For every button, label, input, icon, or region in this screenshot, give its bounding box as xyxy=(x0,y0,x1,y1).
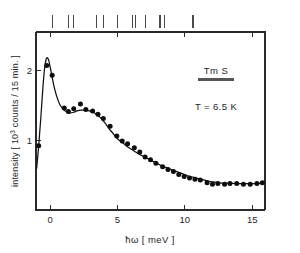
data-point xyxy=(187,175,192,180)
level-marker-group xyxy=(52,15,193,28)
data-point xyxy=(248,182,253,187)
data-point xyxy=(205,180,210,185)
x-axis-tick-label: 0 xyxy=(47,214,52,225)
data-point xyxy=(108,124,113,129)
data-point xyxy=(66,109,71,114)
y-axis-label-prefix: intensity [ 10 xyxy=(10,134,20,187)
data-point xyxy=(192,177,197,182)
data-point xyxy=(90,108,95,113)
data-point xyxy=(215,181,220,186)
data-point xyxy=(160,164,165,169)
sample-annotation: Tm S xyxy=(204,65,228,76)
temperature-annotation: T = 6.5 K xyxy=(195,101,238,112)
data-point xyxy=(222,182,227,187)
data-point xyxy=(120,138,125,143)
data-point xyxy=(182,174,187,179)
data-point xyxy=(44,63,49,68)
data-point xyxy=(62,106,67,111)
fit-curve xyxy=(37,58,265,184)
x-axis-tick-label: 15 xyxy=(247,214,258,225)
y-axis-tick-label: 2 xyxy=(27,65,32,76)
data-point xyxy=(234,181,239,186)
x-axis-tick-label: 10 xyxy=(180,214,191,225)
data-point xyxy=(36,143,41,148)
data-point xyxy=(176,172,181,177)
neutron-spectrum-chart: 051015 12 intensity [ 103 counts / 15 mi… xyxy=(0,0,300,253)
data-point xyxy=(227,181,232,186)
data-point xyxy=(101,116,106,121)
data-point xyxy=(148,157,153,162)
x-axis-tick-labels: 051015 xyxy=(47,214,257,225)
data-point xyxy=(50,73,55,78)
data-point xyxy=(78,101,83,106)
y-axis-tick-label: 1 xyxy=(27,135,32,146)
data-point xyxy=(83,107,88,112)
y-axis-label: intensity [ 103 counts / 15 min. ] xyxy=(9,55,21,187)
x-axis-tick-label: 5 xyxy=(115,214,120,225)
y-axis-tick-labels: 12 xyxy=(27,65,32,146)
data-point xyxy=(260,180,265,185)
data-point xyxy=(71,106,76,111)
data-point xyxy=(241,182,246,187)
figure-container: 051015 12 intensity [ 103 counts / 15 mi… xyxy=(0,0,300,253)
data-point xyxy=(198,177,203,182)
x-axis-label: ħω [ meV ] xyxy=(125,234,174,245)
data-point xyxy=(153,161,158,166)
data-point-group xyxy=(36,63,265,187)
y-axis-label-suffix: counts / 15 min. ] xyxy=(10,55,20,130)
data-point xyxy=(171,169,176,174)
data-point xyxy=(210,182,215,187)
data-point xyxy=(132,145,137,150)
svg-text:intensity [ 103 counts / 15 mi: intensity [ 103 counts / 15 min. ] xyxy=(9,55,21,187)
data-point xyxy=(143,154,148,159)
data-point xyxy=(114,134,119,139)
data-point xyxy=(137,150,142,155)
data-point xyxy=(95,112,100,117)
data-point xyxy=(254,181,259,186)
data-point xyxy=(166,167,171,172)
data-point xyxy=(125,141,130,146)
